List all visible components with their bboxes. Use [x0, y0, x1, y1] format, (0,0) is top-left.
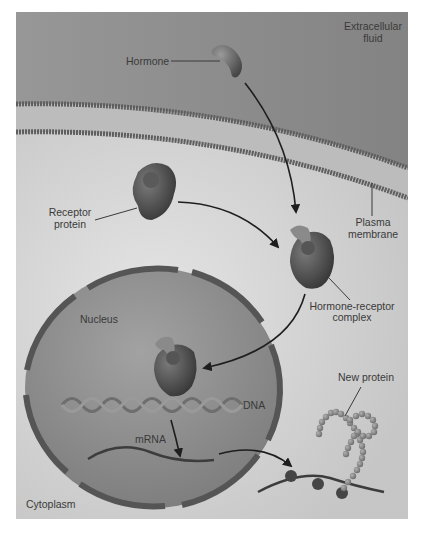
label-cytoplasm: Cytoplasm [26, 498, 76, 510]
label-receptor-protein-2: protein [54, 218, 86, 230]
label-hormone: Hormone [126, 55, 169, 67]
label-mrna: mRNA [135, 433, 166, 445]
label-extracellular-fluid-1: Extracellular [344, 20, 402, 32]
label-nucleus: Nucleus [80, 313, 118, 325]
label-extracellular-fluid-2: fluid [363, 32, 382, 44]
label-hormone-receptor-complex-2: complex [332, 311, 372, 323]
label-dna: DNA [243, 399, 265, 411]
label-plasma-membrane-2: membrane [348, 228, 398, 240]
label-receptor-protein-1: Receptor [49, 206, 92, 218]
label-plasma-membrane-1: Plasma [355, 216, 390, 228]
hormone-action-diagram: Extracellular fluid Hormone Receptor pro… [0, 0, 422, 533]
label-new-protein: New protein [338, 371, 394, 383]
